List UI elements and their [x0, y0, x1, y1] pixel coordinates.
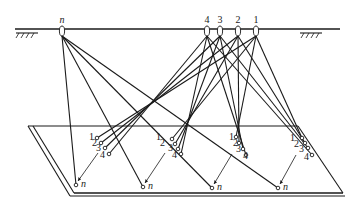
- pulley-icon: [235, 26, 240, 36]
- attach-label-3: 3: [236, 143, 241, 154]
- fixed-support-right-icon: [300, 33, 322, 38]
- pointer-arrow: [145, 153, 165, 183]
- pulley-icon: [253, 26, 258, 36]
- attach-label-4: 4: [304, 151, 309, 162]
- cable-2-group-1: [101, 36, 238, 143]
- pulley-label: 4: [205, 14, 210, 25]
- attach-label-4: 4: [172, 149, 177, 160]
- pulley-4: 4: [204, 14, 209, 36]
- attach-point-n: [74, 183, 78, 187]
- attach-label-n: n: [283, 181, 288, 192]
- cable-1-group-4: [256, 36, 302, 138]
- pulley-icon: [59, 26, 64, 36]
- pulley-label: 3: [218, 14, 223, 25]
- pulley-label: 1: [254, 14, 259, 25]
- cable-4-group-3: [207, 36, 246, 155]
- attach-label-n: n: [148, 180, 153, 191]
- pulley-label: 2: [236, 14, 241, 25]
- attach-label-2: 2: [160, 137, 165, 148]
- platform-left-edge-inner: [33, 126, 74, 193]
- attach-point-1: [170, 137, 174, 141]
- cables: [62, 36, 312, 188]
- attach-point-4: [310, 153, 314, 157]
- cable-n-group-4: [62, 36, 278, 188]
- fixed-support-left-icon: [16, 33, 38, 38]
- rigging-diagram: n4321 1234n1234n1234n1234n: [0, 0, 358, 216]
- attach-label-n: n: [217, 181, 222, 192]
- attachment-group-2: 1234n: [141, 131, 183, 191]
- pointer-arrow: [214, 154, 232, 184]
- attach-point-4: [107, 152, 111, 156]
- pulley-icon: [217, 26, 222, 36]
- cable-2-group-4: [238, 36, 305, 143]
- attach-label-n: n: [81, 178, 86, 189]
- attach-point-4: [179, 152, 183, 156]
- attach-label-4: 4: [243, 150, 248, 161]
- attach-point-n: [141, 185, 145, 189]
- attach-label-4: 4: [100, 149, 105, 160]
- attach-point-1: [300, 136, 304, 140]
- pulley-1: 1: [253, 14, 258, 36]
- pointer-arrow: [78, 153, 98, 181]
- cable-n-group-3: [62, 36, 212, 188]
- attachment-group-3: 1234n: [210, 131, 248, 192]
- platform-left-edge-outer: [28, 126, 70, 196]
- pulley-icon: [204, 26, 209, 36]
- pulleys: n4321: [59, 14, 258, 36]
- attach-point-3: [306, 146, 310, 150]
- attach-point-n: [276, 186, 280, 190]
- pulley-n: n: [59, 14, 64, 36]
- pulley-2: 2: [235, 14, 240, 36]
- pulley-3: 3: [217, 14, 222, 36]
- attach-point-2: [173, 142, 177, 146]
- pulley-label: n: [60, 14, 65, 25]
- cable-2-group-2: [175, 36, 238, 144]
- attach-point-n: [210, 186, 214, 190]
- pointer-arrow: [280, 155, 296, 184]
- attachment-groups: 1234n1234n1234n1234n: [74, 131, 314, 192]
